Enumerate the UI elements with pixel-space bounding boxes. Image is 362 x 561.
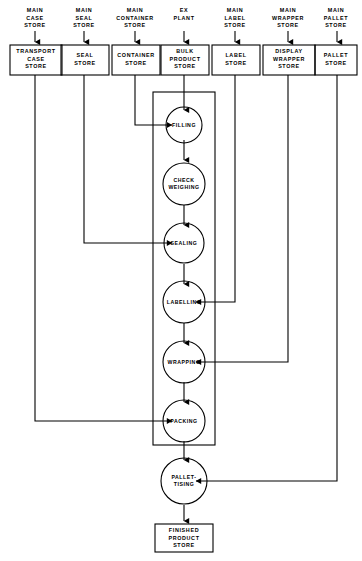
connector-seal-to-sealing xyxy=(84,75,172,243)
box-pallet-store xyxy=(315,45,357,75)
box-label-store xyxy=(212,45,260,75)
flowchart-diagram: MAIN CASE STORE MAIN SEAL STORE MAIN CON… xyxy=(0,0,362,561)
box-bulk-product-store xyxy=(161,45,209,75)
flowchart-geometry xyxy=(0,0,362,561)
box-seal-store xyxy=(61,45,109,75)
connector-pallet-to-palletising xyxy=(196,75,337,481)
node-check-weighing xyxy=(163,163,205,205)
box-finished-product-store xyxy=(155,524,213,552)
box-container-store xyxy=(112,45,160,75)
connector-wrapper-to-wrapping xyxy=(196,75,288,362)
connector-transport-case-to-packing xyxy=(35,75,172,421)
box-transport-case-store xyxy=(10,45,62,75)
box-display-wrapper-store xyxy=(263,45,315,75)
